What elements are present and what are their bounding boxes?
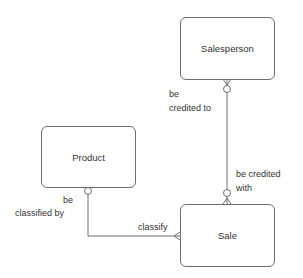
entity-salesperson[interactable]: Salesperson bbox=[180, 17, 275, 80]
label-be-classified-by-line1: be bbox=[63, 195, 73, 206]
label-be-classified-by-line2: classified by bbox=[15, 208, 64, 219]
entity-product[interactable]: Product bbox=[41, 126, 136, 188]
label-be-credited-to-line2: credited to bbox=[169, 103, 211, 114]
entity-salesperson-label: Salesperson bbox=[201, 43, 254, 54]
optional-circle-product-icon bbox=[85, 188, 92, 195]
label-be-credited-to-line1: be bbox=[169, 89, 179, 100]
entity-product-label: Product bbox=[72, 152, 105, 163]
entity-sale-label: Sale bbox=[218, 230, 237, 241]
label-be-credited-with-line2: with bbox=[236, 183, 252, 194]
entity-sale[interactable]: Sale bbox=[180, 204, 275, 267]
label-be-credited-with-line1: be credited bbox=[236, 169, 281, 180]
label-classify: classify bbox=[138, 222, 168, 233]
